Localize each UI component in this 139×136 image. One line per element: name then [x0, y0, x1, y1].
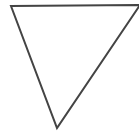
triangle-figure	[0, 0, 139, 136]
diagram-canvas	[0, 0, 139, 136]
inverted-triangle-shape	[11, 5, 139, 128]
